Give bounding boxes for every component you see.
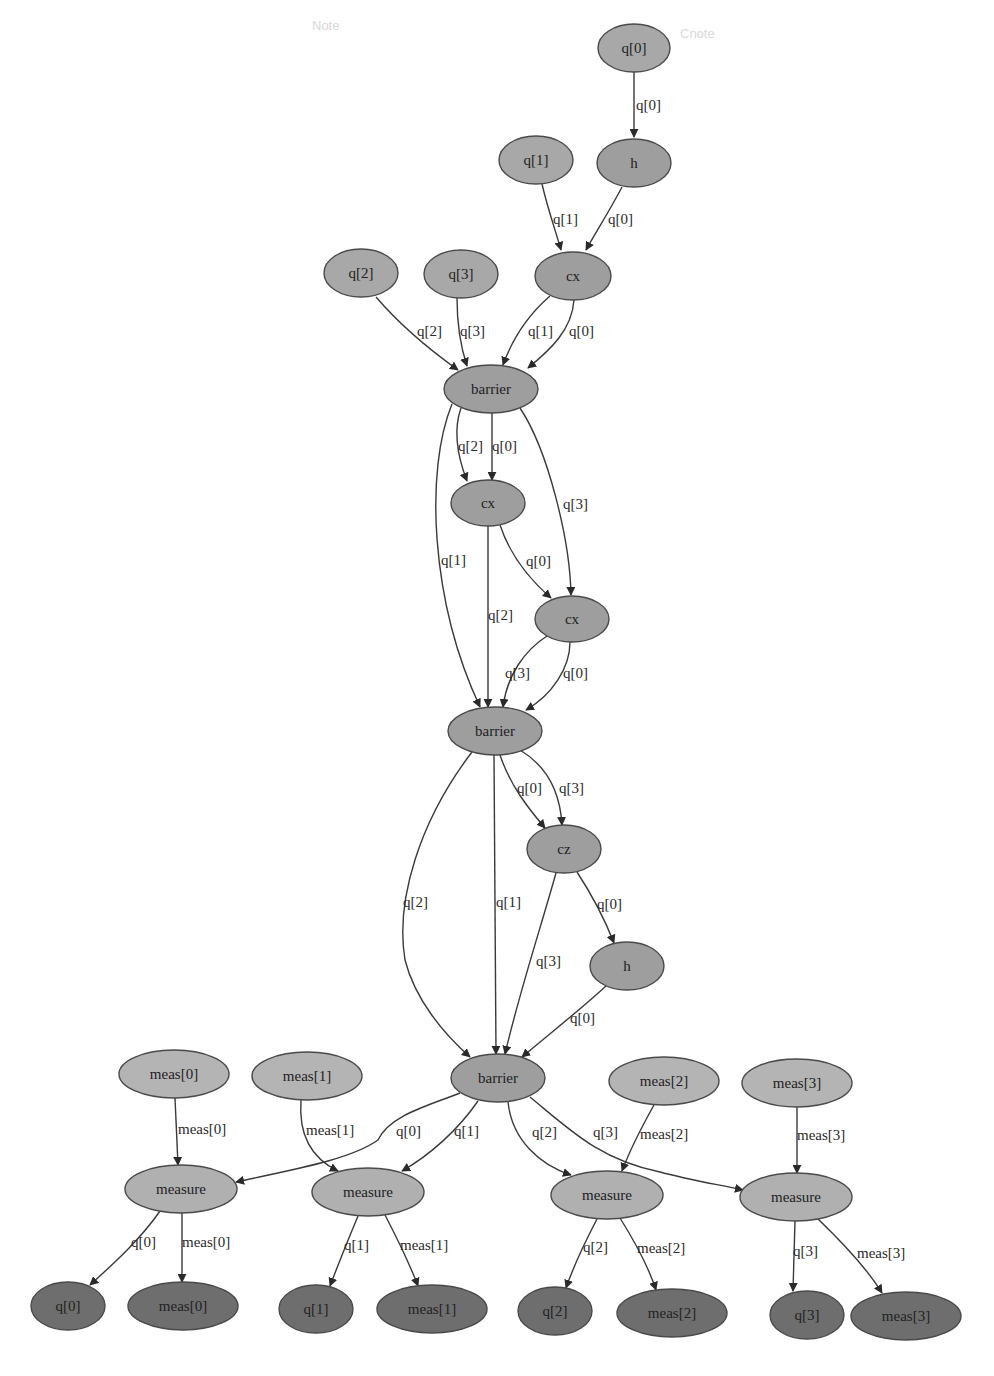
node-label: measure (156, 1181, 206, 1197)
node-label: barrier (475, 723, 515, 739)
edge-label: meas[2] (637, 1240, 685, 1256)
edge-label: q[2] (458, 438, 483, 454)
graph-edge: meas[1] (301, 1100, 355, 1171)
graph-node-measure3: measure (740, 1173, 852, 1221)
graph-node-cx2: cx (451, 480, 525, 526)
edge-label: meas[0] (178, 1121, 226, 1137)
node-label: q[1] (524, 152, 549, 168)
graph-edge: q[1] (330, 1216, 369, 1286)
edge-label: q[0] (569, 323, 594, 339)
node-label: cx (565, 611, 580, 627)
edge-label: q[0] (517, 780, 542, 796)
graph-edge: q[0] (90, 1211, 160, 1285)
edge-label: q[3] (536, 953, 561, 969)
graph-node-in-meas0: meas[0] (119, 1050, 229, 1098)
edge-label: q[2] (532, 1124, 557, 1140)
graph-edge: q[0] (500, 525, 551, 598)
graph-node-in-q2: q[2] (324, 249, 398, 297)
node-label: measure (343, 1184, 393, 1200)
graph-node-measure0: measure (125, 1165, 237, 1213)
graph-node-out-q1: q[1] (279, 1285, 353, 1333)
graph-edge: meas[0] (175, 1098, 226, 1165)
graph-node-out-meas2: meas[2] (617, 1289, 727, 1337)
edge-label: q[1] (528, 323, 553, 339)
node-label: meas[2] (640, 1073, 688, 1089)
node-label: q[0] (622, 40, 647, 56)
graph-edge: meas[1] (385, 1215, 448, 1286)
quantum-circuit-dag: Note Cnote q[0]q[1]q[0]q[2]q[3]q[1]q[0]q… (0, 0, 994, 1376)
graph-edge: q[0] (577, 872, 622, 943)
edge-label: q[3] (563, 496, 588, 512)
node-label: meas[2] (648, 1305, 696, 1321)
edge-label: q[3] (505, 665, 530, 681)
graph-edge: q[3] (457, 298, 485, 366)
node-label: measure (582, 1187, 632, 1203)
node-label: meas[1] (408, 1301, 456, 1317)
graph-edge: q[2] (566, 1219, 608, 1288)
graph-edge: meas[2] (620, 1218, 685, 1290)
graph-edge: q[0] (492, 413, 517, 480)
edge-label: q[2] (488, 607, 513, 623)
graph-node-in-q1: q[1] (499, 136, 573, 184)
node-label: q[2] (349, 265, 374, 281)
graph-node-out-meas3: meas[3] (851, 1292, 961, 1340)
graph-node-in-meas3: meas[3] (742, 1059, 852, 1107)
graph-node-h1: h (597, 139, 671, 187)
edge-label: q[1] (441, 552, 466, 568)
graph-node-cx1: cx (535, 252, 611, 300)
graph-node-in-q3: q[3] (424, 250, 498, 298)
graph-edge: q[2] (403, 752, 472, 1057)
graph-node-out-q0: q[0] (31, 1282, 105, 1330)
graph-edge: q[1] (503, 296, 553, 365)
graph-node-in-meas1: meas[1] (252, 1052, 362, 1100)
edge-label: q[0] (131, 1234, 156, 1250)
edge-label: q[1] (454, 1123, 479, 1139)
graph-edge: q[0] (522, 986, 606, 1057)
edge-label: meas[1] (400, 1237, 448, 1253)
edge-layer: q[0]q[1]q[0]q[2]q[3]q[1]q[0]q[2]q[0]q[3]… (90, 72, 905, 1293)
graph-edge: q[1] (542, 184, 578, 250)
graph-node-out-q3: q[3] (770, 1291, 844, 1339)
edge-label: q[0] (563, 665, 588, 681)
graph-edge: q[2] (376, 297, 458, 370)
edge-label: q[1] (344, 1237, 369, 1253)
edge-label: meas[2] (640, 1126, 688, 1142)
graph-edge: q[2] (457, 408, 483, 481)
graph-edge: q[3] (793, 1221, 818, 1291)
edge-label: q[0] (570, 1010, 595, 1026)
watermark-text: Cnote (680, 26, 715, 41)
graph-edge: q[0] (586, 187, 633, 250)
edge-label: meas[3] (857, 1245, 905, 1261)
node-label: h (623, 958, 631, 974)
graph-edge: q[0] (634, 72, 661, 137)
edge-label: meas[1] (306, 1122, 354, 1138)
node-label: meas[0] (159, 1298, 207, 1314)
graph-edge: q[2] (508, 1102, 571, 1175)
edge-label: q[1] (496, 894, 521, 910)
node-label: q[3] (449, 266, 474, 282)
graph-node-out-q2: q[2] (518, 1287, 592, 1335)
edge-label: q[2] (403, 894, 428, 910)
graph-node-out-meas0: meas[0] (128, 1282, 238, 1330)
graph-edge: q[0] (500, 755, 545, 828)
node-label: measure (771, 1189, 821, 1205)
edge-label: q[2] (417, 323, 442, 339)
edge-label: meas[3] (797, 1127, 845, 1143)
edge-label: meas[0] (182, 1234, 230, 1250)
edge-label: q[0] (608, 211, 633, 227)
graph-edge: meas[0] (182, 1213, 230, 1282)
node-label: q[2] (543, 1303, 568, 1319)
graph-node-measure1: measure (312, 1168, 424, 1216)
node-label: q[1] (304, 1301, 329, 1317)
edge-label: q[0] (636, 97, 661, 113)
node-label: h (630, 155, 638, 171)
node-label: q[3] (795, 1307, 820, 1323)
graph-edge: q[0] (526, 642, 588, 710)
edge-label: q[2] (583, 1239, 608, 1255)
node-label: barrier (478, 1070, 518, 1086)
node-label: meas[0] (150, 1066, 198, 1082)
graph-node-cz1: cz (527, 825, 601, 873)
edge-label: q[0] (396, 1123, 421, 1139)
edge-label: q[3] (593, 1124, 618, 1140)
edge-label: q[0] (492, 438, 517, 454)
